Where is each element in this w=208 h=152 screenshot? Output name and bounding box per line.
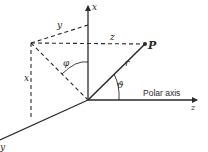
dashed-x-label: x <box>24 73 29 83</box>
dashed-y-label: y <box>56 20 63 30</box>
z-axis-label: z <box>190 103 196 112</box>
point-p-label: P <box>147 39 157 52</box>
dashed-z-segment <box>31 43 145 44</box>
polar-angle-label: ϑ <box>117 80 124 90</box>
azimuth-angle-label: φ <box>63 58 70 68</box>
dashed-projection-line <box>31 43 88 100</box>
x-axis-label: x <box>92 2 97 12</box>
dashed-z-label: z <box>109 32 115 42</box>
radius-vector <box>88 44 145 100</box>
polar-axis-label: Polar axis <box>143 88 180 98</box>
y-axis-label: y <box>0 142 6 152</box>
y-axis <box>0 100 88 140</box>
spherical-coordinates-diagram: x y z P r ϑ φ y z x Polar axis <box>0 0 208 152</box>
radius-label: r <box>125 58 130 68</box>
